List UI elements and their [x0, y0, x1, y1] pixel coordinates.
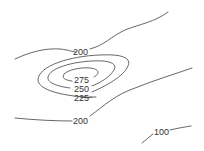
contour-label-100: 100: [154, 127, 169, 137]
contour-label-200-upper: 200: [73, 47, 88, 57]
contour-line-200-upper: [15, 12, 168, 59]
contour-label-225: 225: [74, 93, 89, 103]
contour-line-200-lower: [15, 68, 192, 121]
contour-map: 200 275 250 225 200 100: [0, 0, 204, 151]
contour-label-200-lower: 200: [73, 116, 88, 126]
